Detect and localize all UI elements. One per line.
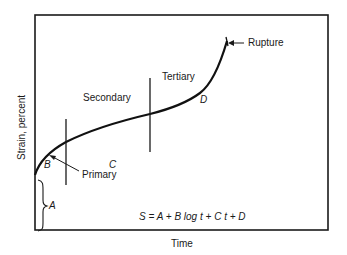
y-axis-label: Strain, percent [16,95,27,160]
a-label: A [48,200,56,211]
rupture-arrow-head-icon [228,40,234,46]
secondary-label: Secondary [83,92,131,103]
plot-frame [35,15,328,230]
x-axis-label: Time [171,238,193,249]
creep-curve-diagram: Rupture Secondary Tertiary Primary B C D… [0,0,347,255]
creep-curve [35,41,227,175]
a-brace-icon [38,180,47,231]
tertiary-label: Tertiary [162,71,195,82]
primary-label: Primary [82,169,116,180]
rupture-label: Rupture [248,37,284,48]
c-label: C [109,159,117,170]
d-label: D [200,94,207,105]
b-label: B [44,159,51,170]
equation-label: S = A + B log t + C t + D [139,211,246,222]
